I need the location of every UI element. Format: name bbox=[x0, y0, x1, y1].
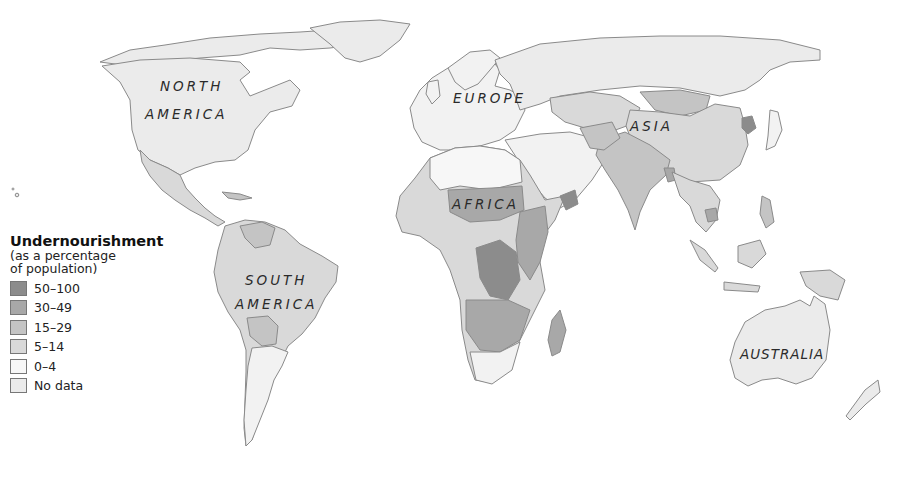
legend-item: 0–4 bbox=[10, 356, 200, 376]
legend-swatch bbox=[10, 281, 27, 296]
label-asia: ASIA bbox=[630, 120, 673, 134]
legend-label: No data bbox=[34, 378, 83, 393]
southern-cone bbox=[244, 346, 288, 446]
label-africa: AFRICA bbox=[452, 198, 519, 212]
legend-swatch bbox=[10, 339, 27, 354]
caribbean bbox=[222, 192, 252, 200]
madagascar bbox=[548, 310, 566, 356]
label-south-america-2: AMERICA bbox=[235, 298, 317, 312]
borneo bbox=[738, 240, 766, 268]
label-north-america-1: NORTH bbox=[160, 80, 224, 94]
legend-title: Undernourishment bbox=[10, 234, 200, 249]
hawaii bbox=[15, 193, 19, 197]
new-guinea bbox=[800, 270, 845, 300]
legend-label: 0–4 bbox=[34, 359, 56, 374]
legend-label: 5–14 bbox=[34, 339, 64, 354]
region-australia-shape bbox=[730, 296, 830, 386]
legend-subtitle-2: of population) bbox=[10, 262, 200, 275]
label-south-america-1: SOUTH bbox=[245, 274, 307, 288]
java bbox=[724, 282, 760, 292]
label-north-america-2: AMERICA bbox=[145, 108, 227, 122]
legend-label: 30–49 bbox=[34, 300, 72, 315]
legend-item: 15–29 bbox=[10, 317, 200, 337]
legend-item: 5–14 bbox=[10, 337, 200, 357]
japan bbox=[766, 110, 782, 150]
southern-africa-mid bbox=[466, 300, 530, 352]
sumatra bbox=[690, 240, 718, 272]
legend-swatch bbox=[10, 320, 27, 335]
new-zealand bbox=[846, 380, 880, 420]
legend: Undernourishment (as a percentage of pop… bbox=[10, 234, 200, 395]
north-africa bbox=[430, 146, 522, 190]
legend-items: 50–100 30–49 15–29 5–14 0–4 No data bbox=[10, 278, 200, 395]
legend-item: 30–49 bbox=[10, 298, 200, 318]
legend-swatch bbox=[10, 378, 27, 393]
legend-swatch bbox=[10, 300, 27, 315]
hawaii-islet bbox=[12, 188, 14, 190]
legend-item: 50–100 bbox=[10, 278, 200, 298]
philippines bbox=[760, 196, 774, 228]
label-europe: EUROPE bbox=[453, 92, 526, 106]
legend-label: 15–29 bbox=[34, 320, 72, 335]
legend-swatch bbox=[10, 359, 27, 374]
label-australia: AUSTRALIA bbox=[740, 348, 824, 362]
legend-label: 50–100 bbox=[34, 281, 80, 296]
legend-item: No data bbox=[10, 376, 200, 396]
